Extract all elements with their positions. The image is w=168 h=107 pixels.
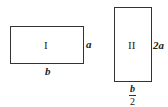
fraction-numerator: b [130,84,135,94]
rectangle-i-label: I [44,40,48,51]
rectangle-ii-height-label: 2a [153,40,164,51]
rectangle-i-height-label: a [86,39,92,50]
rectangle-ii-label: II [128,40,135,51]
fraction-denominator: 2 [130,97,135,107]
rectangle-i-width-label: b [45,66,51,77]
rectangle-ii-width-fraction: b 2 [129,84,136,107]
